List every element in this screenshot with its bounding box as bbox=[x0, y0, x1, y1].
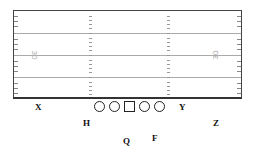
yard-line bbox=[14, 33, 241, 34]
yard-number-right: 30 bbox=[212, 51, 220, 60]
right-tackle-circle-icon bbox=[154, 101, 165, 112]
player-x-label: X bbox=[35, 103, 42, 112]
football-field: 30 30 bbox=[13, 10, 242, 99]
player-f-label: F bbox=[152, 134, 158, 143]
center-square-icon bbox=[124, 101, 135, 112]
right-guard-circle-icon bbox=[139, 101, 150, 112]
player-y-label: Y bbox=[179, 103, 186, 112]
yard-line bbox=[14, 55, 241, 56]
left-tackle-circle-icon bbox=[94, 101, 105, 112]
yard-number-left: 30 bbox=[30, 51, 38, 60]
player-q-label: Q bbox=[123, 137, 130, 146]
left-guard-circle-icon bbox=[109, 101, 120, 112]
yard-line bbox=[14, 77, 241, 78]
player-h-label: H bbox=[83, 119, 90, 128]
hash-marks-right bbox=[167, 11, 170, 97]
player-z-label: Z bbox=[213, 119, 219, 128]
hash-marks-left bbox=[89, 11, 92, 97]
